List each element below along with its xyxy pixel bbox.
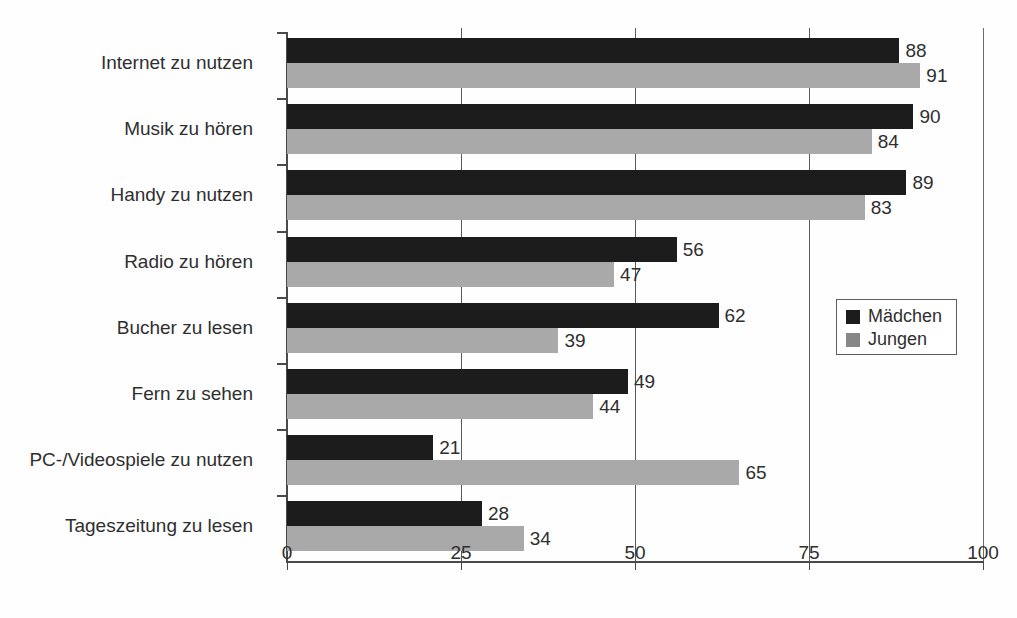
x-tick-label-75: 75 [798, 542, 819, 564]
legend-item-jungen: Jungen [846, 328, 956, 351]
bar-jungen-5 [287, 394, 593, 419]
bar-value-maedchen-0: 88 [905, 38, 926, 63]
bar-maedchen-1 [287, 104, 913, 129]
x-tick-label-50: 50 [624, 542, 645, 564]
bar-value-maedchen-2: 89 [912, 170, 933, 195]
bar-value-maedchen-6: 21 [439, 435, 460, 460]
x-tick-label-100: 100 [967, 542, 999, 564]
bar-jungen-6 [287, 460, 739, 485]
x-tick-label-25: 25 [450, 542, 471, 564]
bar-maedchen-3 [287, 237, 677, 262]
category-label-2: Handy zu nutzen [110, 184, 253, 206]
bar-jungen-1 [287, 129, 872, 154]
bar-value-jungen-6: 65 [745, 460, 766, 485]
legend-item-maedchen: Mädchen [846, 305, 956, 328]
bar-jungen-2 [287, 195, 865, 220]
bar-jungen-3 [287, 262, 614, 287]
y-tick-6 [277, 429, 287, 431]
bar-maedchen-0 [287, 38, 899, 63]
bar-maedchen-4 [287, 303, 719, 328]
bar-value-jungen-4: 39 [564, 328, 585, 353]
legend-label-maedchen: Mädchen [868, 306, 942, 327]
category-label-0: Internet zu nutzen [101, 52, 253, 74]
bar-jungen-7 [287, 526, 524, 551]
category-label-1: Musik zu hören [124, 118, 253, 140]
bar-maedchen-2 [287, 170, 906, 195]
category-axis-labels: Internet zu nutzenMusik zu hörenHandy zu… [0, 0, 275, 618]
legend-swatch-icon-jungen [846, 333, 860, 347]
bar-jungen-4 [287, 328, 558, 353]
bar-maedchen-7 [287, 501, 482, 526]
category-label-3: Radio zu hören [124, 251, 253, 273]
bar-value-jungen-5: 44 [599, 394, 620, 419]
y-tick-0 [277, 32, 287, 34]
category-label-7: Tageszeitung zu lesen [65, 515, 253, 537]
bar-maedchen-6 [287, 435, 433, 460]
bar-value-maedchen-1: 90 [919, 104, 940, 129]
bar-value-jungen-2: 83 [871, 195, 892, 220]
y-tick-2 [277, 164, 287, 166]
bar-value-maedchen-3: 56 [683, 237, 704, 262]
category-label-6: PC-/Videospiele zu nutzen [29, 449, 253, 471]
bar-value-jungen-0: 91 [926, 63, 947, 88]
bar-value-maedchen-4: 62 [725, 303, 746, 328]
legend-swatch-icon-maedchen [846, 310, 860, 324]
y-tick-1 [277, 98, 287, 100]
bar-value-maedchen-7: 28 [488, 501, 509, 526]
legend-label-jungen: Jungen [868, 329, 927, 350]
y-tick-5 [277, 363, 287, 365]
y-tick-7 [277, 495, 287, 497]
bar-jungen-0 [287, 63, 920, 88]
y-tick-4 [277, 297, 287, 299]
category-label-4: Bucher zu lesen [117, 317, 253, 339]
bar-chart: Internet zu nutzenMusik zu hörenHandy zu… [0, 0, 1017, 618]
bar-value-jungen-7: 34 [530, 526, 551, 551]
bar-value-jungen-1: 84 [878, 129, 899, 154]
plot-area: 88919084898356476239494421652834 [287, 32, 983, 562]
bar-value-maedchen-5: 49 [634, 369, 655, 394]
y-tick-3 [277, 231, 287, 233]
category-label-5: Fern zu sehen [132, 383, 253, 405]
x-tick-label-0: 0 [282, 542, 293, 564]
bar-value-jungen-3: 47 [620, 262, 641, 287]
legend: Mädchen Jungen [836, 299, 957, 355]
bar-maedchen-5 [287, 369, 628, 394]
gridline-100 [983, 28, 984, 562]
